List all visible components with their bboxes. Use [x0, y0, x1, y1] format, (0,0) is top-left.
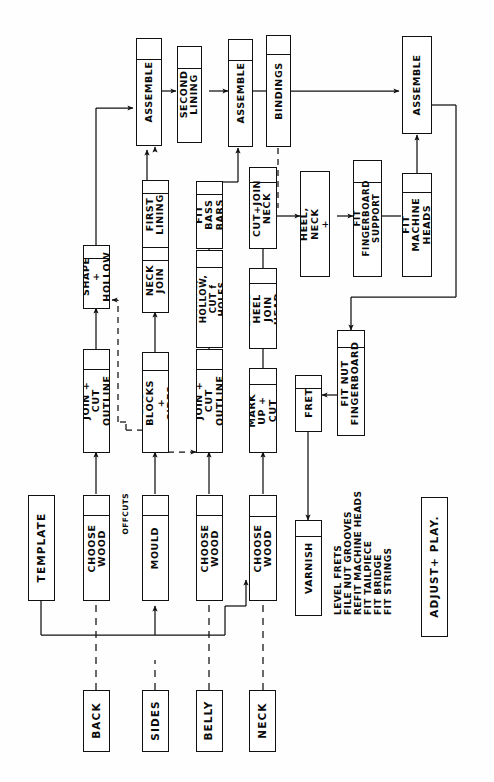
node-mould[interactable]: MOULD	[142, 495, 169, 601]
node-back-shape-hollow[interactable]: SHAPE + HOLLOW	[83, 245, 110, 309]
node-label: ASSEMBLE	[144, 61, 154, 122]
box-cap	[143, 181, 168, 194]
node-assemble-1[interactable]: ASSEMBLE	[136, 38, 162, 146]
node-fit-nut-fingerboard[interactable]: FIT NUT FINGERBOARD	[337, 330, 365, 436]
node-label: ASSEMBLE	[412, 54, 422, 115]
node-back-choose-wood[interactable]: CHOOSE WOOD	[83, 495, 110, 601]
node-label: MOULD	[150, 527, 160, 569]
node-label: MARK UP + CUT	[249, 394, 277, 428]
box-cap	[197, 496, 222, 516]
node-label: SHAPE HEEL, NECK + HEAD	[300, 205, 330, 244]
checklist-item: LEVEL FRETS	[333, 491, 343, 615]
material-box-sides[interactable]: SIDES	[142, 690, 169, 752]
checklist-item: REFIT MACHINE HEADS	[353, 491, 363, 615]
node-fret[interactable]: FRET	[295, 375, 322, 432]
checklist-item: FIT STRINGS	[383, 491, 393, 615]
box-cap	[250, 369, 276, 385]
node-label: ASSEMBLE	[235, 62, 245, 123]
node-label: FIT MACHINE HEADS	[402, 198, 432, 252]
node-build-heel-join-head[interactable]: BUILD HEEL JOIN HEAD	[249, 268, 277, 349]
box-cap	[143, 353, 168, 371]
node-label: SHAPE, HOLLOW, CUT f HOLES	[196, 275, 223, 324]
material-label: NECK	[257, 703, 268, 739]
node-belly-choose-wood[interactable]: CHOOSE WOOD	[196, 495, 223, 601]
node-label: SECOND LINING	[179, 71, 200, 119]
node-shape-heel-neck-head[interactable]: SHAPE HEEL, NECK + HEAD	[300, 171, 330, 277]
box-cap	[84, 496, 109, 516]
box-cap	[403, 174, 431, 193]
node-label: FIT FINGERBOARD SUPPORT	[353, 180, 381, 256]
node-adjust-play[interactable]: ADJUST+ PLAY.	[421, 497, 448, 637]
node-label: FRET	[303, 389, 313, 418]
finishing-checklist: LEVEL FRETS FILE NUT GROOVES REFIT MACHI…	[333, 491, 393, 615]
box-cap	[178, 47, 201, 69]
node-fit-machine-heads[interactable]: FIT MACHINE HEADS	[402, 173, 432, 277]
material-label: BELLY	[204, 701, 215, 741]
node-label: CHOOSE WOOD	[86, 524, 107, 572]
material-box-belly[interactable]: BELLY	[196, 690, 223, 752]
box-cap	[143, 248, 168, 261]
node-assemble-2[interactable]: ASSEMBLE	[228, 39, 253, 147]
node-label: END BLOCKS + SIDES	[142, 380, 169, 426]
box-cap	[143, 496, 168, 516]
node-fit-fingerboard-support[interactable]: FIT FINGERBOARD SUPPORT	[353, 160, 382, 277]
node-label: CHOOSE WOOD	[253, 524, 274, 572]
node-varnish[interactable]: VARNISH	[295, 520, 322, 616]
node-shape-hollow-cut-f-holes[interactable]: SHAPE, HOLLOW, CUT f HOLES	[196, 250, 223, 348]
checklist-item: FILE NUT GROOVES	[343, 491, 353, 615]
box-cap	[137, 39, 161, 60]
node-first-lining[interactable]: FIRST LINING	[142, 180, 169, 248]
material-label: BACK	[91, 703, 102, 739]
node-neck-join[interactable]: NECK JOIN	[142, 247, 169, 313]
node-label: JOIN + CUT OUTLINE	[196, 376, 223, 427]
box-cap	[84, 350, 109, 370]
material-box-back[interactable]: BACK	[83, 690, 110, 752]
box-cap	[296, 376, 321, 389]
node-label: NECK JOIN	[145, 264, 166, 295]
box-cap	[250, 496, 276, 517]
node-label: TEMPLATE	[36, 513, 47, 583]
node-label: FIT BASS BARS	[196, 199, 223, 230]
material-label: SIDES	[150, 701, 161, 741]
node-label: CHOOSE WOOD	[199, 524, 220, 572]
node-fit-bass-bars[interactable]: FIT BASS BARS	[196, 181, 223, 249]
node-back-join-cut-outline[interactable]: JOIN + CUT OUTLINE	[83, 349, 110, 453]
node-label: JOIN + CUT OUTLINE	[83, 376, 110, 427]
box-cap	[197, 251, 222, 268]
annotation-offcuts: OFFCUTS	[121, 493, 130, 535]
node-label: BUILD HEEL JOIN HEAD	[249, 291, 277, 326]
box-cap	[229, 40, 252, 61]
node-label: VARNISH	[303, 542, 313, 594]
node-template[interactable]: TEMPLATE	[28, 495, 55, 601]
node-label: CUT+JOIN NECK	[253, 179, 274, 236]
box-cap	[267, 36, 290, 55]
material-box-neck[interactable]: NECK	[249, 690, 276, 752]
node-label: SHAPE + HOLLOW	[83, 252, 110, 302]
node-end-blocks-sides[interactable]: END BLOCKS + SIDES	[142, 352, 169, 453]
node-assemble-3[interactable]: ASSEMBLE	[402, 36, 432, 134]
node-neck-choose-wood[interactable]: CHOOSE WOOD	[249, 495, 277, 601]
node-belly-join-cut-outline[interactable]: JOIN + CUT OUTLINE	[196, 349, 223, 453]
annotation-offcuts-text: OFFCUTS	[121, 493, 130, 535]
flowchart-canvas: BACK SIDES BELLY NECK TEMPLATE CHOOSE WO…	[0, 0, 494, 782]
box-cap	[197, 182, 222, 195]
checklist-item: FIT TAILPIECE	[363, 491, 373, 615]
node-bindings[interactable]: BINDINGS	[266, 35, 291, 147]
node-label: ADJUST+ PLAY.	[429, 516, 440, 618]
node-label: FIRST LINING	[145, 194, 166, 234]
node-cut-join-neck[interactable]: CUT+JOIN NECK	[249, 167, 277, 249]
node-label: BINDINGS	[273, 62, 283, 120]
box-cap	[296, 521, 321, 537]
box-cap	[250, 269, 276, 284]
checklist-item: FIT BRIDGE	[373, 491, 383, 615]
node-second-lining[interactable]: SECOND LINING	[177, 46, 202, 143]
node-mark-up-cut[interactable]: MARK UP + CUT	[249, 368, 277, 453]
box-cap	[197, 350, 222, 370]
node-label: FIT NUT FINGERBOARD	[341, 341, 362, 425]
